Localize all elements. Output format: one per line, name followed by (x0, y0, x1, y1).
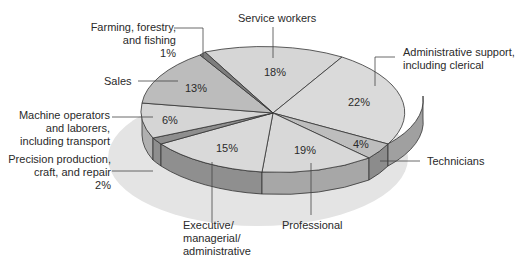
pct-machine-operators: 6% (162, 114, 178, 126)
label-line: Farming, forestry, (91, 21, 176, 34)
label-line: and fishing (91, 34, 176, 47)
label-line: craft, and repair (8, 166, 111, 179)
pct-sales: 13% (185, 82, 207, 94)
label-farming: Farming, forestry, and fishing 1% (91, 21, 176, 60)
label-professional: Professional (282, 219, 343, 232)
label-technicians: Technicians (427, 155, 484, 168)
label-line: 2% (8, 179, 111, 192)
label-line: Executive/ (183, 219, 251, 232)
label-precision-production: Precision production, craft, and repair … (8, 153, 111, 192)
label-line: Precision production, (8, 153, 111, 166)
label-executive: Executive/ managerial/ administrative (183, 219, 251, 258)
label-service-workers: Service workers (238, 12, 316, 25)
label-line: managerial/ (183, 232, 251, 245)
pct-technicians: 4% (353, 138, 369, 150)
label-administrative-support: Administrative support, including cleric… (403, 46, 515, 72)
pct-administrative-support: 22% (348, 96, 370, 108)
pct-service-workers: 18% (264, 66, 286, 78)
label-line: and laborers, (19, 122, 110, 135)
label-line: 1% (91, 47, 176, 60)
label-line: Machine operators (19, 109, 110, 122)
label-line: administrative (183, 245, 251, 258)
label-line: including clerical (403, 59, 515, 72)
label-line: Administrative support, (403, 46, 515, 59)
pct-professional: 19% (294, 144, 316, 156)
label-line: including transport (19, 135, 110, 148)
label-machine-operators: Machine operators and laborers, includin… (19, 109, 110, 148)
pct-executive: 15% (216, 142, 238, 154)
label-sales: Sales (104, 75, 132, 88)
